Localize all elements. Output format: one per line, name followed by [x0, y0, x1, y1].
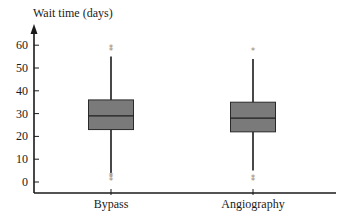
x-category-label: Bypass: [94, 197, 129, 211]
y-tick-label: 30: [16, 107, 28, 121]
y-tick-label: 20: [16, 129, 28, 143]
box-plot: 0102030405060 *****Bypass***Angiography: [0, 0, 352, 218]
y-tick-label: 40: [16, 84, 28, 98]
axes: 0102030405060: [16, 24, 336, 193]
iqr-box: [231, 102, 276, 132]
box-angiography: ***Angiography: [221, 46, 284, 211]
y-tick-label: 10: [16, 152, 28, 166]
y-tick-label: 50: [16, 61, 28, 75]
boxes: *****Bypass***Angiography: [89, 43, 285, 211]
outlier-marker: *: [109, 43, 114, 53]
box-bypass: *****Bypass: [89, 43, 134, 211]
outlier-marker: *: [109, 171, 114, 181]
iqr-box: [89, 100, 134, 130]
outlier-marker: *: [251, 173, 256, 183]
y-tick-label: 60: [16, 38, 28, 52]
outlier-marker: *: [251, 46, 256, 56]
x-category-label: Angiography: [221, 197, 284, 211]
y-tick-label: 0: [22, 175, 28, 189]
y-axis-arrow-icon: [31, 24, 38, 34]
